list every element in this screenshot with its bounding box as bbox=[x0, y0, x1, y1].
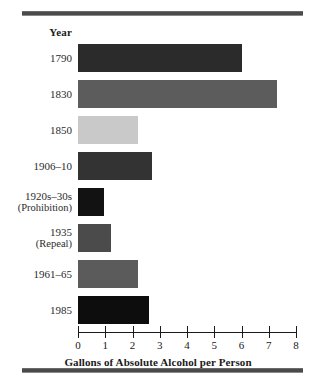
x-tick bbox=[133, 326, 134, 338]
category-label-line1: 1850 bbox=[50, 124, 72, 137]
category-label-line1: 1830 bbox=[50, 88, 72, 101]
year-column-header: Year bbox=[0, 26, 72, 38]
plot-area: Year 1790183018501906–101920s–30s(Prohib… bbox=[0, 26, 316, 346]
category-label-line2: (Prohibition) bbox=[18, 202, 72, 215]
table-row: 1906–10 bbox=[0, 148, 316, 184]
category-label: 1830 bbox=[0, 76, 72, 112]
x-tick-label: 7 bbox=[259, 339, 279, 351]
category-label: 1790 bbox=[0, 40, 72, 76]
category-label: 1961–65 bbox=[0, 256, 72, 292]
bar-1985 bbox=[78, 296, 149, 324]
x-tick-label: 3 bbox=[150, 339, 170, 351]
x-tick bbox=[78, 326, 79, 338]
x-tick bbox=[269, 326, 270, 338]
category-label-line1: 1906–10 bbox=[34, 160, 73, 173]
table-row: 1935(Repeal) bbox=[0, 220, 316, 256]
category-label-line1: 1961–65 bbox=[34, 268, 73, 281]
category-label-line1: 1935 bbox=[50, 226, 72, 239]
table-row: 1790 bbox=[0, 40, 316, 76]
category-label: 1850 bbox=[0, 112, 72, 148]
category-label-line1: 1920s–30s bbox=[25, 190, 72, 203]
category-label: 1935(Repeal) bbox=[0, 220, 72, 256]
top-rule bbox=[22, 11, 303, 16]
bar-1850 bbox=[78, 116, 138, 144]
x-tick-label: 4 bbox=[177, 339, 197, 351]
x-tick bbox=[214, 326, 215, 338]
x-tick bbox=[296, 326, 297, 338]
bar-1935 bbox=[78, 224, 111, 252]
category-label-line1: 1985 bbox=[50, 304, 72, 317]
bar-1830 bbox=[78, 80, 277, 108]
category-label-line1: 1790 bbox=[50, 52, 72, 65]
category-label: 1920s–30s(Prohibition) bbox=[0, 184, 72, 220]
bar-rows: 1790183018501906–101920s–30s(Prohibition… bbox=[0, 40, 316, 332]
x-axis-label: Gallons of Absolute Alcohol per Person bbox=[0, 356, 316, 368]
x-tick bbox=[242, 326, 243, 338]
bar-1920s-30s bbox=[78, 188, 104, 216]
x-tick bbox=[187, 326, 188, 338]
alcohol-consumption-bar-chart: Year 1790183018501906–101920s–30s(Prohib… bbox=[0, 0, 316, 386]
category-label: 1906–10 bbox=[0, 148, 72, 184]
x-tick-label: 8 bbox=[286, 339, 306, 351]
bottom-rule bbox=[22, 368, 303, 373]
x-tick bbox=[105, 326, 106, 338]
table-row: 1920s–30s(Prohibition) bbox=[0, 184, 316, 220]
table-row: 1961–65 bbox=[0, 256, 316, 292]
table-row: 1850 bbox=[0, 112, 316, 148]
bar-1961-65 bbox=[78, 260, 138, 288]
x-tick-label: 6 bbox=[232, 339, 252, 351]
category-label-line2: (Repeal) bbox=[36, 238, 72, 251]
x-tick bbox=[160, 326, 161, 338]
bar-1906-10 bbox=[78, 152, 152, 180]
category-label: 1985 bbox=[0, 292, 72, 328]
table-row: 1830 bbox=[0, 76, 316, 112]
table-row: 1985 bbox=[0, 292, 316, 328]
x-tick-label: 2 bbox=[123, 339, 143, 351]
bar-1790 bbox=[78, 44, 242, 72]
x-tick-label: 1 bbox=[95, 339, 115, 351]
x-tick-label: 0 bbox=[68, 339, 88, 351]
x-tick-label: 5 bbox=[204, 339, 224, 351]
